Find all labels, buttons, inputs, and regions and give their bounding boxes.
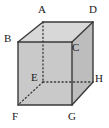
vertex-label-A: A	[38, 4, 46, 15]
vertex-label-F: F	[12, 111, 18, 122]
vertex-label-D: D	[89, 4, 97, 15]
vertex-label-B: B	[4, 33, 11, 44]
cube-diagram: A B C D E F G H	[0, 0, 109, 128]
vertex-label-H: H	[95, 73, 103, 84]
vertex-label-C: C	[72, 42, 79, 53]
cube-figure-canvas	[0, 0, 109, 128]
face-front	[18, 42, 72, 105]
vertex-label-E: E	[31, 72, 38, 83]
vertex-label-G: G	[68, 111, 76, 122]
